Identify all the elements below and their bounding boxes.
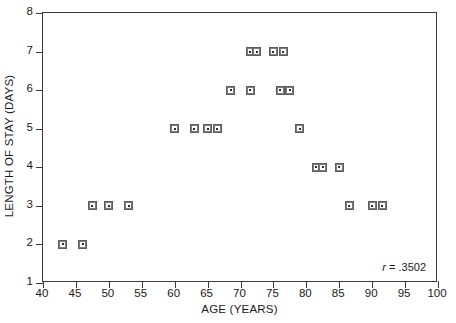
data-point bbox=[203, 124, 212, 133]
data-point bbox=[378, 201, 387, 210]
data-point bbox=[318, 163, 327, 172]
y-axis-tick bbox=[36, 167, 43, 168]
correlation-value: .3502 bbox=[398, 261, 426, 273]
data-point bbox=[295, 124, 304, 133]
y-axis-tick bbox=[36, 52, 43, 53]
data-point bbox=[104, 201, 113, 210]
data-point bbox=[269, 47, 278, 56]
y-axis-tick bbox=[36, 129, 43, 130]
data-point bbox=[335, 163, 344, 172]
data-point bbox=[276, 86, 285, 95]
data-point bbox=[226, 86, 235, 95]
scatter-chart: r = .3502 12345678 404550556065707580859… bbox=[0, 0, 456, 323]
data-point bbox=[78, 240, 87, 249]
plot-area bbox=[43, 13, 436, 281]
correlation-annotation: r = .3502 bbox=[382, 261, 426, 273]
y-axis-tick bbox=[36, 206, 43, 207]
y-axis-tick bbox=[36, 283, 43, 284]
data-point bbox=[368, 201, 377, 210]
x-axis-tick-label: 100 bbox=[417, 287, 456, 299]
data-point bbox=[58, 240, 67, 249]
data-point bbox=[124, 201, 133, 210]
y-axis-tick bbox=[36, 13, 43, 14]
data-point bbox=[190, 124, 199, 133]
x-axis-title: AGE (YEARS) bbox=[42, 303, 437, 315]
correlation-equals: = bbox=[386, 261, 399, 273]
data-point bbox=[213, 124, 222, 133]
data-point bbox=[279, 47, 288, 56]
y-axis-tick bbox=[36, 90, 43, 91]
data-point bbox=[170, 124, 179, 133]
data-point bbox=[285, 86, 294, 95]
y-axis-title: LENGTH OF STAY (DAYS) bbox=[3, 0, 15, 296]
plot-frame: r = .3502 bbox=[42, 12, 437, 282]
data-point bbox=[246, 86, 255, 95]
data-point bbox=[88, 201, 97, 210]
y-axis-tick bbox=[36, 244, 43, 245]
data-point bbox=[252, 47, 261, 56]
data-point bbox=[345, 201, 354, 210]
